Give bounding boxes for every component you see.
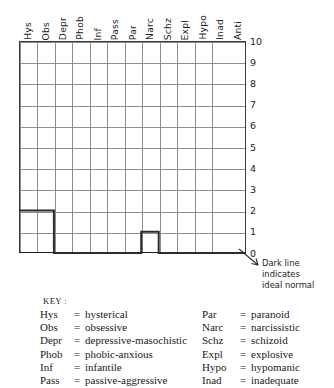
key-abbreviation: Inf <box>40 361 74 374</box>
key-abbreviation: Inad <box>202 374 240 387</box>
key-equals-sign: = <box>74 308 85 321</box>
column-header-schz: Schz <box>159 0 176 40</box>
legend-key: KEY : Hys=hystericalObs=obsessiveDepr=de… <box>40 296 334 388</box>
key-equals-sign: = <box>240 361 251 374</box>
key-equals-sign: = <box>240 308 251 321</box>
column-header-anti: Anti <box>229 0 246 40</box>
y-tick-9: 9 <box>250 58 272 68</box>
key-equals-sign: = <box>74 374 85 387</box>
key-definition: passive-aggressive <box>85 374 196 387</box>
annotation-line-2: indicates <box>262 269 334 280</box>
column-header-inf: Inf <box>89 0 106 40</box>
ideal-normal-annotation: Dark line indicates ideal normal <box>262 258 334 291</box>
annotation-line-1: Dark line <box>262 258 334 269</box>
y-tick-3: 3 <box>250 185 272 195</box>
key-definition: obsessive <box>85 321 196 334</box>
column-header-label: Obs <box>41 22 50 40</box>
column-header-par: Par <box>124 0 141 40</box>
key-abbreviation: Par <box>202 308 240 321</box>
key-definition: depressive-masochistic <box>85 334 196 347</box>
column-header-obs: Obs <box>36 0 53 40</box>
key-equals-sign: = <box>240 334 251 347</box>
key-abbreviation: Hypo <box>202 361 240 374</box>
key-row-depr: Depr=depressive-masochistic <box>40 334 196 347</box>
column-header-label: Anti <box>233 21 242 40</box>
ideal-normal-line <box>19 41 246 255</box>
column-header-narc: Narc <box>141 0 158 40</box>
key-equals-sign: = <box>74 334 85 347</box>
key-definition: infantile <box>85 361 196 374</box>
key-row-inad: Inad=inadequate <box>202 374 334 387</box>
column-header-label: Depr <box>58 17 67 40</box>
y-tick-7: 7 <box>250 100 272 110</box>
column-header-label: Schz <box>163 18 172 40</box>
key-abbreviation: Depr <box>40 334 74 347</box>
column-header-label: Pass <box>110 19 119 40</box>
personality-profile-chart-figure: HysObsDeprPhobInfPassParNarcSchzExplHypo… <box>0 0 334 388</box>
annotation-line-3: ideal normal <box>262 280 334 291</box>
key-definition: phobic-anxious <box>85 348 196 361</box>
key-row-schz: Schz=schizoid <box>202 334 334 347</box>
key-abbreviation: Narc <box>202 321 240 334</box>
key-abbreviation: Phob <box>40 348 74 361</box>
y-tick-2: 2 <box>250 206 272 216</box>
key-definition: paranoid <box>251 308 334 321</box>
y-tick-10: 10 <box>250 37 272 47</box>
y-axis-tick-labels: 109876543210 <box>250 41 274 253</box>
key-row-pass: Pass=passive-aggressive <box>40 374 196 387</box>
key-definition: inadequate <box>251 374 334 387</box>
column-header-inad: Inad <box>211 0 228 40</box>
key-equals-sign: = <box>240 348 251 361</box>
column-header-label: Inad <box>215 19 224 40</box>
key-equals-sign: = <box>240 321 251 334</box>
column-header-phob: Phob <box>71 0 88 40</box>
key-equals-sign: = <box>74 348 85 361</box>
y-tick-8: 8 <box>250 79 272 89</box>
column-header-label: Inf <box>93 28 102 40</box>
key-row-expl: Expl=explosive <box>202 348 334 361</box>
key-abbreviation: Expl <box>202 348 240 361</box>
column-header-expl: Expl <box>176 0 193 40</box>
key-row-inf: Inf=infantile <box>40 361 196 374</box>
column-header-hypo: Hypo <box>194 0 211 40</box>
key-equals-sign: = <box>74 361 85 374</box>
key-row-hypo: Hypo=hypomanic <box>202 361 334 374</box>
column-header-pass: Pass <box>106 0 123 40</box>
y-tick-6: 6 <box>250 121 272 131</box>
column-header-label: Hys <box>23 22 32 40</box>
key-row-phob: Phob=phobic-anxious <box>40 348 196 361</box>
y-tick-5: 5 <box>250 143 272 153</box>
column-header-label: Expl <box>180 20 189 40</box>
key-definition: hysterical <box>85 308 196 321</box>
column-header-label: Phob <box>75 16 84 40</box>
column-header-label: Par <box>128 25 137 40</box>
key-definition: hypomanic <box>251 361 334 374</box>
key-equals-sign: = <box>240 374 251 387</box>
y-tick-4: 4 <box>250 164 272 174</box>
key-abbreviation: Obs <box>40 321 74 334</box>
key-abbreviation: Hys <box>40 308 74 321</box>
key-definition: narcissistic <box>251 321 334 334</box>
key-column-left: Hys=hystericalObs=obsessiveDepr=depressi… <box>40 308 196 387</box>
column-header-label: Narc <box>145 18 154 40</box>
key-definition: explosive <box>251 348 334 361</box>
column-header-hys: Hys <box>19 0 36 40</box>
key-title: KEY : <box>43 296 67 306</box>
key-row-obs: Obs=obsessive <box>40 321 196 334</box>
key-definition: schizoid <box>251 334 334 347</box>
column-header-label: Hypo <box>198 15 207 40</box>
key-row-narc: Narc=narcissistic <box>202 321 334 334</box>
key-abbreviation: Pass <box>40 374 74 387</box>
key-row-par: Par=paranoid <box>202 308 334 321</box>
key-equals-sign: = <box>74 321 85 334</box>
column-header-depr: Depr <box>54 0 71 40</box>
key-abbreviation: Schz <box>202 334 240 347</box>
y-tick-1: 1 <box>250 227 272 237</box>
key-row-hys: Hys=hysterical <box>40 308 196 321</box>
key-column-right: Par=paranoidNarc=narcissisticSchz=schizo… <box>202 308 334 387</box>
column-header-row: HysObsDeprPhobInfPassParNarcSchzExplHypo… <box>19 0 246 41</box>
